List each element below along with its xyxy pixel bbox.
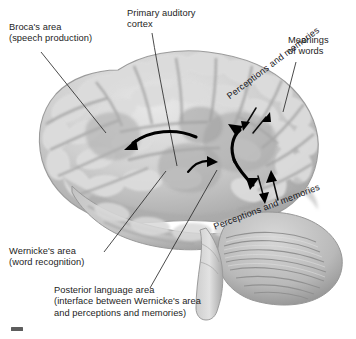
wernickes-line2: (word recognition) xyxy=(9,257,84,267)
brocas-area-line2: (speech production) xyxy=(9,33,92,43)
arrow-to-brocas xyxy=(124,131,196,150)
meanings-leader-line xyxy=(283,62,296,112)
auditory-line2: cortex xyxy=(127,19,153,29)
posterior-language-area-label: Posterior language area(interface betwee… xyxy=(54,285,201,319)
posterior-line2: (interface between Wernicke's area xyxy=(54,296,201,306)
arrow-meanings-out xyxy=(253,112,271,133)
wernickes-leader-line xyxy=(104,171,166,252)
arrow-to-wernickes xyxy=(188,156,218,172)
auditory-line1: Primary auditory xyxy=(127,8,195,18)
brocas-area-line1: Broca's area xyxy=(9,22,62,32)
wernickes-area-label: Wernicke's area(word recognition) xyxy=(9,246,84,269)
s-curve-arrow-up xyxy=(228,124,243,162)
brocas-area-label: Broca's area(speech production) xyxy=(9,22,92,45)
wernickes-line1: Wernicke's area xyxy=(9,246,76,256)
brain-language-areas-figure: Broca's area(speech production) Primary … xyxy=(0,0,356,339)
primary-auditory-cortex-label: Primary auditorycortex xyxy=(127,8,195,31)
arrow-meanings-in xyxy=(241,108,256,131)
scale-bar-mark xyxy=(11,327,23,331)
posterior-leader-line xyxy=(150,170,217,288)
posterior-line1: Posterior language area xyxy=(54,285,154,295)
auditory-leader-line xyxy=(152,33,177,166)
s-curve-arrow-down xyxy=(234,160,259,190)
brocas-leader-line xyxy=(41,52,106,133)
posterior-line3: and perceptions and memories) xyxy=(54,308,186,318)
